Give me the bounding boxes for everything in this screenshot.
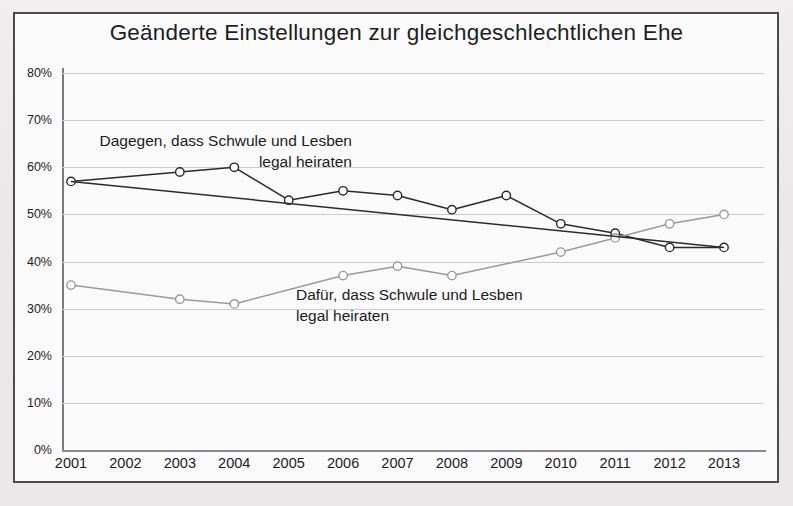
page-title: Geänderte Einstellungen zur gleichgeschl… bbox=[0, 20, 793, 46]
y-axis-tick-label: 20% bbox=[8, 350, 52, 363]
annotation-for: Dafür, dass Schwule und Lesben legal hei… bbox=[296, 285, 523, 327]
gridline bbox=[62, 262, 764, 263]
annotation-against: Dagegen, dass Schwule und Lesben legal h… bbox=[90, 131, 352, 173]
x-axis-tick-label: 2012 bbox=[640, 455, 700, 471]
x-axis-tick-label: 2001 bbox=[41, 455, 101, 471]
x-axis-tick-label: 2010 bbox=[531, 455, 591, 471]
y-axis-tick-label: 70% bbox=[8, 114, 52, 127]
y-axis-tick-label: 10% bbox=[8, 397, 52, 410]
gridline bbox=[62, 73, 764, 74]
y-axis-tick-label: 80% bbox=[8, 67, 52, 80]
x-axis-tick-label: 2008 bbox=[422, 455, 482, 471]
y-axis-tick-label: 60% bbox=[8, 161, 52, 174]
y-axis-tick-label: 50% bbox=[8, 208, 52, 221]
y-axis-tick-label: 40% bbox=[8, 256, 52, 269]
y-axis-tick-label: 30% bbox=[8, 303, 52, 316]
x-axis-tick-label: 2013 bbox=[694, 455, 754, 471]
x-axis-tick-label: 2009 bbox=[476, 455, 536, 471]
gridline bbox=[62, 356, 764, 357]
x-axis-tick-label: 2002 bbox=[95, 455, 155, 471]
plot-area bbox=[62, 73, 764, 450]
x-axis-line bbox=[62, 450, 766, 452]
x-axis-tick-label: 2007 bbox=[368, 455, 428, 471]
x-axis-tick-label: 2005 bbox=[259, 455, 319, 471]
x-axis-tick-label: 2003 bbox=[150, 455, 210, 471]
gridline bbox=[62, 214, 764, 215]
chart-page: Geänderte Einstellungen zur gleichgeschl… bbox=[0, 0, 793, 506]
x-axis-tick-label: 2006 bbox=[313, 455, 373, 471]
x-axis-tick-label: 2011 bbox=[585, 455, 645, 471]
gridline bbox=[62, 403, 764, 404]
x-axis-tick-label: 2004 bbox=[204, 455, 264, 471]
gridline bbox=[62, 120, 764, 121]
